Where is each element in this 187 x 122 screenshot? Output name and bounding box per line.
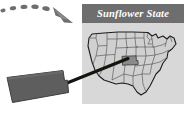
dash-segment — [0, 8, 6, 13]
panel-title: Sunflower State — [97, 8, 169, 19]
dashed-arrow-head-icon — [53, 7, 73, 23]
dashed-curved-arrow — [0, 4, 73, 23]
dash-segment — [42, 6, 50, 12]
dash-segment — [20, 5, 27, 10]
figure-canvas: Sunflower State — [0, 0, 187, 122]
dash-segment — [10, 6, 17, 11]
dash-segment — [31, 4, 39, 9]
